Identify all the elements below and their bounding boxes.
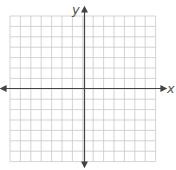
y-axis-top-arrow-icon bbox=[82, 7, 87, 12]
x-axis bbox=[1, 86, 166, 91]
y-axis-label: y bbox=[71, 2, 80, 17]
x-axis-right-arrow-icon bbox=[161, 86, 166, 91]
x-axis-label: x bbox=[166, 81, 175, 96]
coordinate-plane: x y bbox=[0, 0, 176, 170]
y-axis-bottom-arrow-icon bbox=[82, 162, 87, 167]
x-axis-left-arrow-icon bbox=[1, 86, 6, 91]
